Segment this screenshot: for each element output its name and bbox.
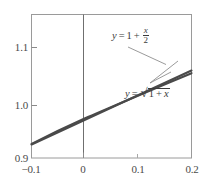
plot-canvas (0, 0, 204, 187)
sqrt-equation-label: y=√1+x (125, 86, 170, 100)
sqrt-eq-radicand-plus: + (156, 88, 162, 99)
radical-icon: √ (141, 85, 148, 100)
tangent-line (32, 71, 192, 145)
sqrt-eq-equals: = (132, 88, 138, 99)
sqrt-eq-radical-group: √1+x (140, 86, 170, 100)
sqrt-eq-radicand-x: x (164, 88, 169, 99)
tangent-eq-plus: + (134, 30, 140, 41)
tangent-eq-denominator: 2 (143, 36, 149, 45)
tangent-equation-label: y=1+ x 2 (112, 26, 149, 46)
figure-container: 1.1 1.0 0.9 −0.1 0 0.1 0.2 y=1+ x 2 y=√1… (0, 0, 204, 187)
x-tick-label-0.2: 0.2 (172, 163, 204, 175)
x-tick-label--0.1: −0.1 (11, 163, 51, 175)
sqrt-eq-radicand: 1+x (148, 88, 170, 100)
tangent-eq-one: 1 (127, 30, 132, 41)
x-tick-label-0: 0 (63, 163, 103, 175)
x-tick-label-0.1: 0.1 (118, 163, 158, 175)
sqrt-eq-radicand-one: 1 (149, 88, 154, 99)
y-tick-label-1.0: 1.0 (2, 99, 28, 111)
tangent-leader-line (128, 47, 166, 65)
tangent-eq-equals: = (119, 30, 125, 41)
tangent-eq-fraction: x 2 (143, 26, 149, 46)
y-tick-label-1.1: 1.1 (2, 41, 28, 53)
sqrt-eq-lhs: y (125, 88, 130, 99)
tangent-eq-lhs: y (112, 30, 117, 41)
